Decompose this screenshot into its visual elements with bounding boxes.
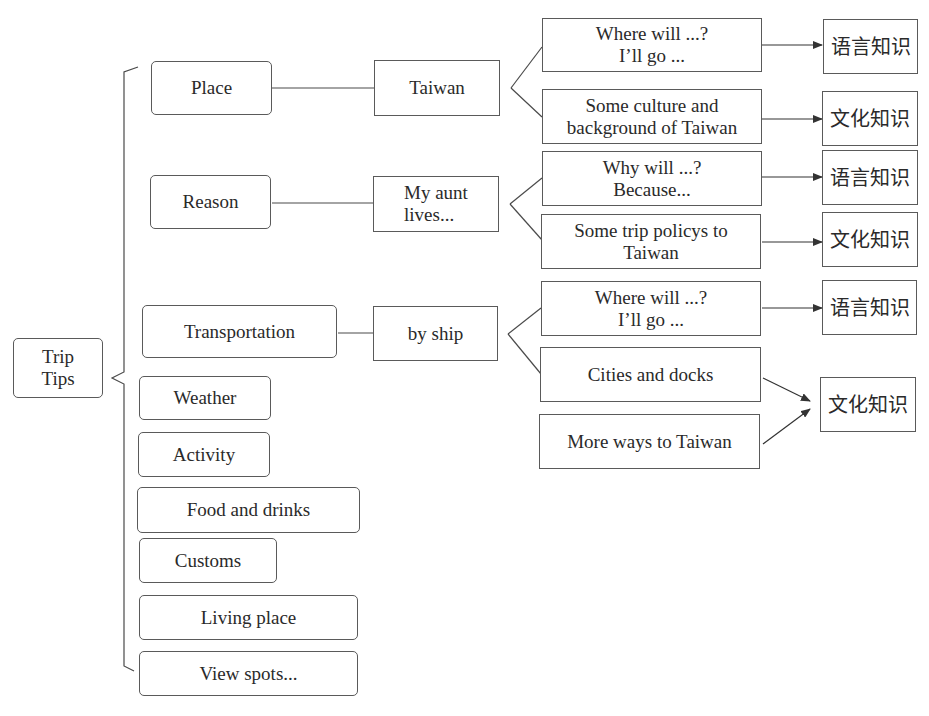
category-label: Food and drinks [187, 499, 311, 521]
category-activity[interactable]: Activity [138, 432, 270, 477]
detail-label: Some trip policys to Taiwan [574, 220, 728, 264]
category-food-and-drinks[interactable]: Food and drinks [137, 487, 360, 533]
category-label: Transportation [184, 321, 295, 343]
category-place[interactable]: Place [151, 61, 272, 115]
detail-where-will-1[interactable]: Where will ...? I’ll go ... [542, 18, 762, 72]
knowledge-label: 语言知识 [831, 36, 911, 58]
knowledge-label: 语言知识 [830, 167, 910, 189]
answer-label: Taiwan [409, 77, 465, 99]
knowledge-label: 语言知识 [830, 297, 910, 319]
detail-label: Why will ...? Because... [603, 157, 702, 201]
answer-taiwan[interactable]: Taiwan [374, 60, 500, 116]
detail-why-will[interactable]: Why will ...? Because... [542, 151, 762, 206]
category-label: View spots... [199, 663, 297, 685]
knowledge-language-2[interactable]: 语言知识 [822, 150, 918, 205]
category-customs[interactable]: Customs [139, 538, 277, 583]
detail-label: Some culture and background of Taiwan [567, 95, 737, 139]
category-label: Weather [174, 387, 237, 409]
answer-by-ship[interactable]: by ship [373, 306, 498, 361]
detail-label: Cities and docks [588, 364, 714, 386]
knowledge-language-1[interactable]: 语言知识 [823, 19, 918, 74]
detail-trip-policies[interactable]: Some trip policys to Taiwan [541, 214, 761, 269]
category-weather[interactable]: Weather [139, 376, 271, 420]
category-transportation[interactable]: Transportation [142, 305, 337, 358]
root-node-trip-tips[interactable]: Trip Tips [13, 338, 103, 398]
trip-tips-mind-map: Trip Tips Place Reason Transportation We… [0, 0, 929, 716]
answer-label: My aunt lives... [404, 182, 468, 226]
detail-label: Where will ...? I’ll go ... [595, 287, 707, 331]
knowledge-label: 文化知识 [830, 108, 910, 130]
knowledge-culture-1[interactable]: 文化知识 [822, 91, 918, 146]
root-label: Trip Tips [41, 346, 74, 390]
detail-label: Where will ...? I’ll go ... [596, 23, 708, 67]
detail-where-will-2[interactable]: Where will ...? I’ll go ... [541, 281, 761, 336]
category-view-spots[interactable]: View spots... [139, 651, 358, 696]
detail-more-ways[interactable]: More ways to Taiwan [539, 414, 760, 469]
category-reason[interactable]: Reason [150, 175, 271, 229]
knowledge-culture-3[interactable]: 文化知识 [820, 377, 916, 432]
category-label: Activity [173, 444, 235, 466]
answer-my-aunt-lives[interactable]: My aunt lives... [373, 176, 499, 232]
category-label: Living place [201, 607, 297, 629]
category-label: Reason [183, 191, 239, 213]
detail-culture-background[interactable]: Some culture and background of Taiwan [542, 89, 762, 144]
category-label: Customs [175, 550, 242, 572]
knowledge-label: 文化知识 [830, 229, 910, 251]
category-label: Place [191, 77, 232, 99]
detail-cities-and-docks[interactable]: Cities and docks [540, 347, 761, 402]
knowledge-language-3[interactable]: 语言知识 [822, 280, 917, 335]
detail-label: More ways to Taiwan [567, 431, 732, 453]
knowledge-culture-2[interactable]: 文化知识 [822, 212, 918, 267]
category-living-place[interactable]: Living place [139, 595, 358, 640]
knowledge-label: 文化知识 [828, 394, 908, 416]
answer-label: by ship [408, 323, 463, 345]
